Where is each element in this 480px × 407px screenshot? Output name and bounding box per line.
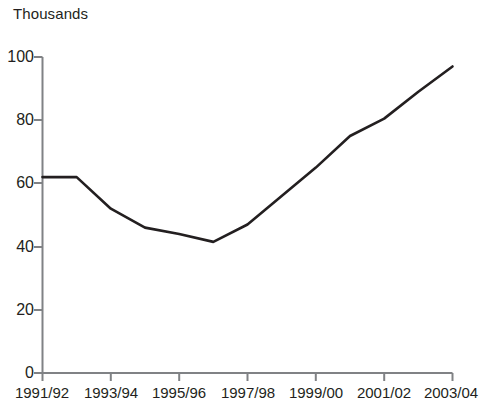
x-tick-label-1999-00: 1999/00 — [289, 385, 343, 401]
y-tick-label-100: 100 — [0, 49, 34, 65]
y-axis-ticks — [34, 57, 43, 373]
x-axis-ticks — [43, 373, 453, 381]
y-tick-label-80: 80 — [0, 112, 34, 128]
x-tick-label-2003-04: 2003/04 — [424, 385, 478, 401]
plot-area — [0, 0, 480, 407]
x-tick-label-2001-02: 2001/02 — [357, 385, 411, 401]
line-chart: Thousands 100 — [0, 0, 480, 407]
y-tick-label-40: 40 — [0, 239, 34, 255]
y-tick-label-60: 60 — [0, 175, 34, 191]
y-tick-label-0: 0 — [0, 365, 34, 381]
x-tick-label-1995-96: 1995/96 — [152, 385, 206, 401]
x-tick-label-1993-94: 1993/94 — [84, 385, 138, 401]
data-line-series — [43, 66, 453, 241]
chart-axes — [34, 57, 453, 381]
x-tick-label-1991-92: 1991/92 — [15, 385, 69, 401]
x-tick-label-1997-98: 1997/98 — [221, 385, 275, 401]
y-tick-label-20: 20 — [0, 302, 34, 318]
